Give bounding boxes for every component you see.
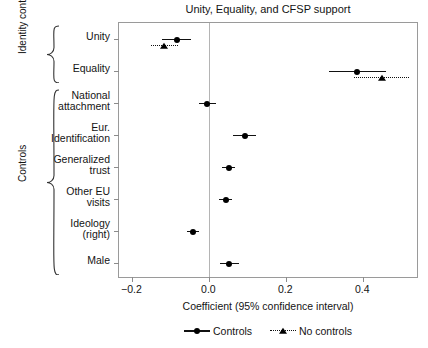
plot-area (118, 22, 418, 278)
y-axis-tick (114, 199, 119, 200)
legend-item-controls: Controls (184, 324, 252, 337)
group-brace-icon (46, 89, 62, 276)
legend-label-no-controls: No controls (296, 325, 352, 337)
data-point-circle (354, 69, 360, 75)
y-axis-tick (114, 135, 119, 136)
chart-legend: Controls No controls (118, 323, 418, 337)
dotted-triangle-marker-icon (270, 326, 296, 336)
data-point-circle (223, 197, 229, 203)
legend-label-controls: Controls (210, 325, 252, 337)
data-point-circle (226, 165, 232, 171)
x-axis-tick (132, 277, 133, 282)
y-axis-tick (114, 71, 119, 72)
data-point-triangle (160, 42, 168, 48)
y-axis-tick (114, 263, 119, 264)
coefficient-plot-figure: Unity, Equality, and CFSP support UnityE… (0, 0, 428, 348)
data-point-circle (204, 101, 210, 107)
x-axis-label: Coefficient (95% confidence interval) (118, 300, 418, 312)
x-axis-tick (286, 277, 287, 282)
x-axis-tick (209, 277, 210, 282)
x-axis-tick-label: −0.2 (121, 283, 142, 295)
legend-item-no-controls: No controls (270, 324, 352, 337)
chart-title: Unity, Equality, and CFSP support (118, 3, 418, 15)
data-point-circle (226, 261, 232, 267)
group-brace-icon (46, 25, 62, 84)
x-axis-tick-label: 0.2 (278, 283, 293, 295)
solid-circle-marker-icon (184, 326, 210, 336)
zero-reference-line (209, 23, 210, 277)
y-axis-tick (114, 231, 119, 232)
x-axis-tick (363, 277, 364, 282)
data-point-circle (242, 133, 248, 139)
y-axis-tick (114, 39, 119, 40)
data-point-circle (190, 229, 196, 235)
data-point-triangle (378, 74, 386, 80)
y-axis-tick (114, 167, 119, 168)
x-axis-tick-label: 0.4 (355, 283, 370, 295)
y-axis-tick (114, 103, 119, 104)
data-point-circle (174, 37, 180, 43)
x-axis-tick-label: 0.0 (201, 283, 216, 295)
